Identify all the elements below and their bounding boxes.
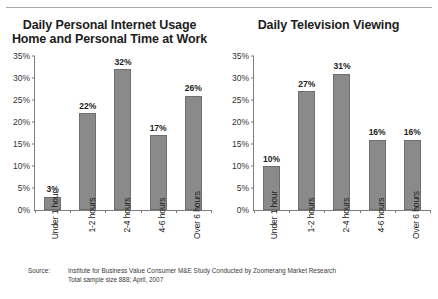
x-axis-category-label: 1-2 hours bbox=[306, 197, 315, 232]
x-axis-labels-internet-usage: Under 1 hour1-2 hours2-4 hours4-6 hoursO… bbox=[34, 211, 211, 267]
y-axis-tick-label: 0% bbox=[18, 206, 35, 215]
bar-slot: 17% bbox=[141, 56, 174, 210]
y-axis-tick-mark bbox=[251, 188, 254, 189]
y-axis-tick-mark bbox=[251, 100, 254, 101]
bar-slot: 22% bbox=[71, 56, 104, 210]
x-axis-category-label: 1-2 hours bbox=[87, 197, 96, 232]
x-axis-labels-television-viewing: Under 1 hour1-2 hours2-4 hours4-6 hoursO… bbox=[253, 211, 430, 267]
y-axis-tick-mark bbox=[32, 144, 35, 145]
chart-title-television-viewing: Daily Television Viewing bbox=[219, 14, 438, 32]
footnote-row-2: Total sample size 888; April, 2007 bbox=[28, 275, 336, 284]
plot-area-wrapper-television-viewing: 10%27%31%16%16% 0%5%10%15%20%25%30%35% U… bbox=[219, 56, 438, 267]
y-axis-tick-mark bbox=[32, 122, 35, 123]
x-axis-category-label: Under 1 hour bbox=[52, 191, 61, 239]
bar-value-label: 26% bbox=[185, 84, 202, 93]
y-axis-tick-mark bbox=[32, 78, 35, 79]
x-axis-category-label: Under 1 hour bbox=[271, 191, 280, 239]
x-axis-category-label: 2-4 hours bbox=[342, 197, 351, 232]
x-axis-category-label: Over 6 hours bbox=[412, 191, 421, 239]
x-axis-category-label: 2-4 hours bbox=[123, 197, 132, 232]
bar-value-label: 31% bbox=[333, 62, 350, 71]
bar-slot: 3% bbox=[36, 56, 69, 210]
chart-title-line-1: Daily Personal Internet Usage bbox=[6, 18, 213, 32]
bar-value-label: 27% bbox=[298, 80, 315, 89]
x-axis-tick-mark bbox=[430, 210, 431, 213]
bar-value-label: 22% bbox=[79, 102, 96, 111]
chart-title-line-1: Daily Television Viewing bbox=[225, 18, 432, 32]
bar-slot: 31% bbox=[325, 56, 358, 210]
y-axis-tick-mark bbox=[32, 100, 35, 101]
bar-slot: 27% bbox=[290, 56, 323, 210]
y-axis-tick-mark bbox=[32, 56, 35, 57]
footnote-row-1: Source:Institute for Business Value Cons… bbox=[28, 266, 336, 275]
bar-slot: 26% bbox=[177, 56, 210, 210]
plot-area-wrapper-internet-usage: 3%22%32%17%26% 0%5%10%15%20%25%30%35% Un… bbox=[0, 56, 219, 267]
y-axis-tick-mark bbox=[32, 188, 35, 189]
footnote-line-2: Total sample size 888; April, 2007 bbox=[68, 276, 163, 283]
y-axis-tick-mark bbox=[32, 166, 35, 167]
plot-area-internet-usage: 3%22%32%17%26% 0%5%10%15%20%25%30%35% bbox=[34, 56, 211, 211]
y-axis-tick-mark bbox=[251, 122, 254, 123]
y-axis-tick-mark bbox=[251, 56, 254, 57]
bar-series-television-viewing: 10%27%31%16%16% bbox=[254, 56, 430, 210]
bar-value-label: 16% bbox=[404, 128, 421, 137]
footnote-label: Source: bbox=[28, 266, 68, 275]
bar-series-internet-usage: 3%22%32%17%26% bbox=[35, 56, 211, 210]
chart-panel-internet-usage: Daily Personal Internet Usage Home and P… bbox=[0, 14, 219, 262]
charts-container: Daily Personal Internet Usage Home and P… bbox=[0, 14, 438, 262]
bar-slot: 10% bbox=[255, 56, 288, 210]
bar-slot: 32% bbox=[106, 56, 139, 210]
bar[interactable] bbox=[298, 91, 315, 210]
chart-panel-television-viewing: Daily Television Viewing 10%27%31%16%16%… bbox=[219, 14, 438, 262]
y-axis-tick-mark bbox=[251, 144, 254, 145]
x-axis-tick-mark bbox=[211, 210, 212, 213]
bar-value-label: 10% bbox=[263, 155, 280, 164]
y-axis-tick-mark bbox=[251, 166, 254, 167]
y-axis-tick-mark bbox=[251, 78, 254, 79]
chart-title-line-2: Home and Personal Time at Work bbox=[6, 32, 213, 46]
source-footnote: Source:Institute for Business Value Cons… bbox=[28, 266, 336, 284]
x-axis-category-label: 4-6 hours bbox=[158, 197, 167, 232]
bar-slot: 16% bbox=[360, 56, 393, 210]
y-axis-tick-label: 0% bbox=[237, 206, 254, 215]
bar-value-label: 32% bbox=[114, 58, 131, 67]
plot-area-television-viewing: 10%27%31%16%16% 0%5%10%15%20%25%30%35% bbox=[253, 56, 430, 211]
bar-slot: 16% bbox=[396, 56, 429, 210]
bar[interactable] bbox=[114, 69, 131, 210]
bar-value-label: 16% bbox=[369, 128, 386, 137]
bar[interactable] bbox=[333, 74, 350, 210]
x-axis-category-label: 4-6 hours bbox=[377, 197, 386, 232]
footnote-line-1: Institute for Business Value Consumer M&… bbox=[68, 267, 336, 274]
bar-value-label: 17% bbox=[150, 124, 167, 133]
bar[interactable] bbox=[79, 113, 96, 210]
x-axis-category-label: Over 6 hours bbox=[193, 191, 202, 239]
header-rule bbox=[6, 7, 432, 8]
chart-title-internet-usage: Daily Personal Internet Usage Home and P… bbox=[0, 14, 219, 46]
